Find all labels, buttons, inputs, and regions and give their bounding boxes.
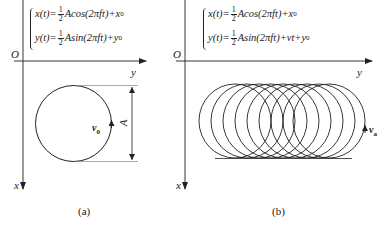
trochoid-loops-b — [199, 84, 365, 159]
velocity-label-a: v0 — [92, 122, 100, 136]
x-axis-label-a: x — [14, 179, 19, 191]
equation-block-a: x(t)= 12 Acos(2πft)+x0 y(t)= 12 Asin(2πf… — [30, 6, 130, 52]
velocity-subscript-b: a — [373, 130, 377, 138]
fraction: 12 — [58, 30, 64, 47]
frac-den: 2 — [232, 39, 236, 47]
eq-lhs: y(t)= — [208, 33, 230, 44]
fraction: 12 — [231, 30, 237, 47]
eq-rhs: Acos(2πft)+x — [238, 9, 294, 20]
equation-block-b: x(t)= 12 Acos(2πft)+x0 y(t)= 12 Asin(2πf… — [203, 6, 323, 52]
eq-sub: 0 — [293, 11, 297, 18]
equation-x-b: x(t)= 12 Acos(2πft)+x0 — [208, 6, 297, 23]
equation-x-a: x(t)= 12 Acos(2πft)+x0 — [35, 6, 124, 23]
eq-rhs: Asin(2πft)+y — [65, 33, 119, 44]
eq-lhs: x(t)= — [208, 9, 230, 20]
eq-sub: 0 — [120, 11, 124, 18]
caption-a: (a) — [78, 205, 90, 217]
origin-label-a: O — [11, 48, 19, 60]
velocity-label-b: va — [369, 124, 377, 138]
frac-den: 2 — [59, 15, 63, 23]
eq-rhs: Asin(2πft)+vt+y — [238, 33, 306, 44]
eq-sub: 0 — [306, 35, 310, 42]
circle-trajectory-a — [36, 86, 112, 162]
y-axis-label-a: y — [131, 66, 136, 78]
eq-sub: 0 — [118, 35, 122, 42]
origin-label-b: O — [173, 48, 181, 60]
caption-b: (b) — [272, 205, 285, 217]
eq-lhs: x(t)= — [35, 9, 57, 20]
equation-y-a: y(t)= 12 Asin(2πft)+y0 — [35, 30, 122, 47]
x-axis-label-b: x — [176, 179, 181, 191]
fraction: 12 — [58, 6, 64, 23]
equation-y-b: y(t)= 12 Asin(2πft)+vt+y0 — [208, 30, 310, 47]
frac-den: 2 — [232, 15, 236, 23]
y-axis-label-b: y — [357, 66, 362, 78]
eq-lhs: y(t)= — [35, 33, 57, 44]
velocity-subscript-a: 0 — [96, 128, 100, 136]
eq-rhs: Acos(2πft)+x — [65, 9, 121, 20]
fraction: 12 — [231, 6, 237, 23]
dimension-label-A: A — [117, 120, 129, 127]
frac-den: 2 — [59, 39, 63, 47]
